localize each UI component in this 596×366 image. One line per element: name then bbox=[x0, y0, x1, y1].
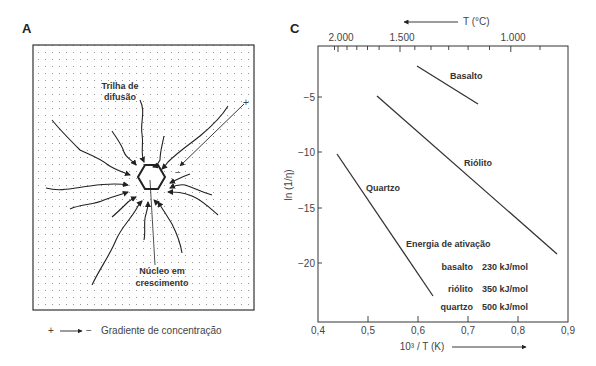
ae-material-basalto: basalto bbox=[441, 262, 473, 272]
y-tick--20: −20 bbox=[298, 258, 315, 269]
figure-canvas: A + − Trilha de di bbox=[0, 0, 596, 366]
label-riolito: Riólito bbox=[464, 158, 492, 168]
x-tick-0.8: 0,8 bbox=[511, 325, 525, 336]
diffusion-trail-label-line1: Trilha de bbox=[101, 81, 138, 91]
ae-material-quartzo: quartzo bbox=[441, 302, 474, 312]
ae-value-basalto: 230 kJ/mol bbox=[482, 262, 528, 272]
activation-energy-table: Energia de ativação basalto 230 kJ/mol r… bbox=[406, 239, 528, 312]
y-tick--10: −10 bbox=[298, 147, 315, 158]
growing-nucleus-label-line2: crescimento bbox=[135, 278, 189, 288]
y-axis-ticks bbox=[318, 97, 322, 263]
growing-nucleus-hexagon bbox=[138, 165, 165, 189]
x-tick-0.9: 0,9 bbox=[561, 325, 575, 336]
label-quartzo: Quartzo bbox=[366, 183, 401, 193]
ae-value-quartzo: 500 kJ/mol bbox=[482, 302, 528, 312]
line-riolito bbox=[377, 96, 557, 254]
top-tick-1000: 1.000 bbox=[500, 32, 525, 43]
x-tick-0.4: 0,4 bbox=[311, 325, 325, 336]
gradient-plus-sign: + bbox=[243, 97, 249, 108]
top-tick-2000: 2.000 bbox=[328, 32, 353, 43]
y-axis-title: ln (1/η) bbox=[283, 169, 294, 200]
panel-a: A + − Trilha de di bbox=[22, 21, 254, 336]
top-axis-ticks bbox=[335, 46, 541, 52]
gradient-minus-sign: − bbox=[175, 167, 181, 178]
ae-value-riolito: 350 kJ/mol bbox=[482, 284, 528, 294]
panel-c-label: C bbox=[290, 21, 300, 36]
legend-plus: + bbox=[48, 325, 54, 336]
y-tick--5: −5 bbox=[304, 92, 316, 103]
ae-material-riolito: riólito bbox=[448, 284, 473, 294]
growing-nucleus-label-line1: Núcleo em bbox=[139, 266, 185, 276]
top-tick-1500: 1.500 bbox=[389, 32, 414, 43]
legend-text: Gradiente de concentração bbox=[101, 325, 222, 336]
x-axis-title: 10³ / T (K) bbox=[400, 341, 445, 352]
panel-c: C T (°C) 2.000 1.500 1.000 bbox=[283, 16, 575, 352]
y-tick--15: −15 bbox=[298, 203, 315, 214]
panel-a-label: A bbox=[22, 21, 32, 36]
top-axis-title: T (°C) bbox=[463, 16, 490, 27]
label-basalto: Basalto bbox=[450, 71, 483, 81]
x-axis-ticks bbox=[368, 316, 518, 322]
legend-minus: − bbox=[86, 325, 92, 336]
x-tick-0.7: 0,7 bbox=[461, 325, 475, 336]
x-tick-0.6: 0,6 bbox=[411, 325, 425, 336]
concentration-gradient-legend: + − Gradiente de concentração bbox=[48, 325, 222, 336]
activation-energy-title: Energia de ativação bbox=[406, 239, 491, 249]
x-tick-0.5: 0,5 bbox=[361, 325, 375, 336]
plot-frame bbox=[318, 46, 568, 322]
line-quartzo bbox=[337, 154, 433, 296]
diffusion-trail-label-line2: difusão bbox=[104, 92, 137, 102]
